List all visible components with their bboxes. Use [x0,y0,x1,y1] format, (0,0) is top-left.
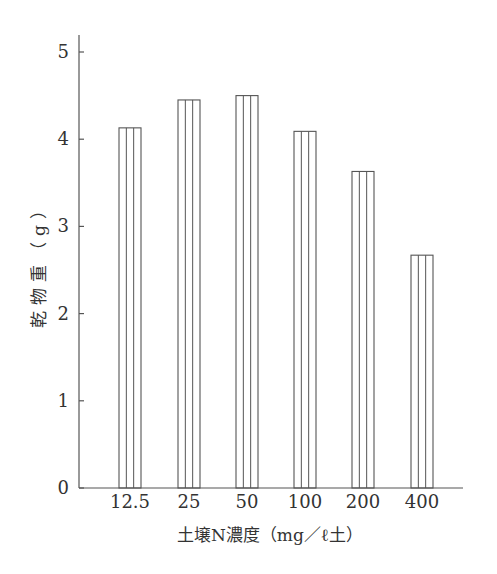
x-axis-ticks: 12.52550100200400 [110,491,439,512]
y-tick-label: 1 [58,390,69,411]
x-tick-label: 50 [236,491,259,512]
bar-100 [294,131,316,488]
bars [119,96,433,488]
x-tick-label: 12.5 [110,491,150,512]
bar-200 [352,171,374,488]
x-tick-label: 200 [346,491,380,512]
y-axis-ticks: 012345 [58,41,84,498]
y-tick-label: 5 [58,41,69,62]
y-tick-label: 3 [58,215,69,236]
x-tick-label: 25 [178,491,201,512]
y-tick-label: 0 [58,477,69,498]
y-tick-label: 2 [58,303,69,324]
bar-50 [236,96,258,488]
bar-25 [178,100,200,488]
y-tick-label: 4 [58,128,69,149]
bar-12.5 [119,128,141,488]
x-tick-label: 100 [288,491,322,512]
bar-400 [411,255,433,488]
x-tick-label: 400 [405,491,439,512]
y-axis-title: 乾物重（g） [29,196,49,328]
x-axis-title: 土壌N濃度（mg／ℓ土） [177,525,363,545]
bar-chart: 012345 12.52550100200400 土壌N濃度（mg／ℓ土） 乾物… [0,0,497,574]
